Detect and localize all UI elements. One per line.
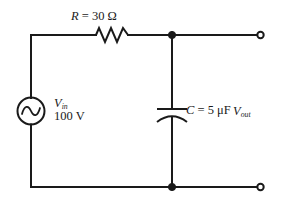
output-subscript: out bbox=[241, 110, 251, 119]
source-value: 100 V bbox=[54, 109, 85, 123]
resistor-symbol: R bbox=[71, 9, 79, 23]
sine-wave-icon bbox=[22, 107, 40, 115]
output-symbol: V bbox=[233, 104, 241, 118]
capacitor-value: = 5 bbox=[194, 103, 217, 117]
source-symbol: V bbox=[54, 96, 62, 110]
terminal-top-right bbox=[257, 32, 263, 38]
source-label: Vin 100 V bbox=[54, 96, 85, 123]
terminal-bottom-right bbox=[257, 184, 263, 190]
capacitor-label: C = 5 μF bbox=[186, 103, 231, 117]
resistor-label: R = 30 Ω bbox=[71, 9, 117, 23]
junction-dot-top bbox=[168, 31, 175, 38]
resistor-unit: Ω bbox=[108, 9, 117, 23]
junction-dot-bottom bbox=[168, 183, 175, 190]
source-symbol-line: Vin bbox=[54, 96, 68, 110]
capacitor-unit: μF bbox=[217, 103, 231, 117]
resistor-value: = 30 bbox=[79, 9, 108, 23]
source-subscript: in bbox=[62, 102, 68, 111]
output-label: Vout bbox=[233, 104, 251, 118]
resistor-zigzag-icon bbox=[96, 28, 128, 42]
circuit-diagram: R = 30 Ω C = 5 μF Vin 100 V Vout bbox=[0, 0, 284, 208]
